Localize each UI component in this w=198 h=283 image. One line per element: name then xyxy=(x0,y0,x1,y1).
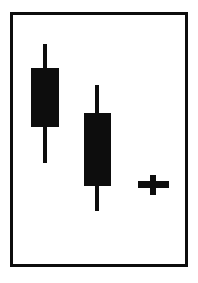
candle-2-body xyxy=(84,113,111,186)
candle-3-doji-body xyxy=(138,181,169,188)
candle-1-body xyxy=(31,68,59,127)
candlestick-figure xyxy=(0,0,198,283)
